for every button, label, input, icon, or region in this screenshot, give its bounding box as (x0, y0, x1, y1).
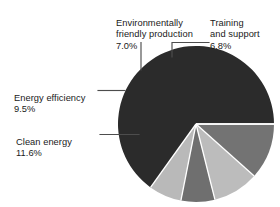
callout-training-and-support: Training and support 6.8% (210, 7, 280, 63)
callout-clean-energy: Clean energy 11.6% (16, 126, 100, 171)
callout-percent-clean-energy: 11.6% (16, 148, 100, 159)
callout-label-energy-efficiency: Energy efficiency (14, 93, 85, 103)
callout-percent-training-and-support: 6.8% (210, 41, 280, 52)
callout-environmentally-friendly-production: Environmentally friendly production 7.0% (116, 7, 212, 63)
callout-label-clean-energy: Clean energy (16, 137, 72, 147)
callout-energy-efficiency: Energy efficiency 9.5% (14, 82, 100, 127)
callout-label-training-and-support: Training and support (210, 18, 260, 39)
callout-percent-energy-efficiency: 9.5% (14, 104, 100, 115)
callout-label-environmentally-friendly-production: Environmentally friendly production (116, 18, 193, 39)
pie-chart-figure: Environmentally friendly production 7.0%… (0, 0, 280, 207)
callout-percent-environmentally-friendly-production: 7.0% (116, 41, 212, 52)
